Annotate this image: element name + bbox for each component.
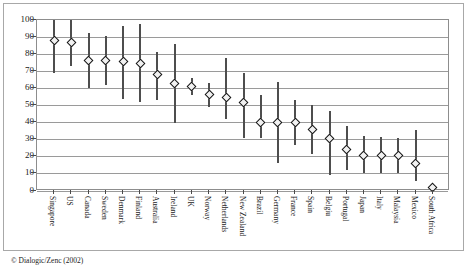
y-tick-mark [31,190,36,191]
y-tick-mark [31,138,36,139]
x-category-label: Spain [306,196,314,213]
y-tick-mark [31,19,36,20]
x-tick-mark [277,190,278,194]
data-point-marker [187,82,197,92]
x-category-label: Denmark [117,196,125,224]
gridline [37,139,448,140]
x-tick-mark [432,190,433,194]
data-point-marker [307,124,317,134]
x-tick-mark [363,190,364,194]
x-category-label: Mexico [410,196,418,219]
x-tick-mark [208,190,209,194]
y-tick-mark [31,121,36,122]
x-tick-mark [294,190,295,194]
x-category-label: South Africa [427,196,435,234]
data-point-marker [84,55,94,65]
data-point-marker [376,150,386,160]
x-tick-mark [380,190,381,194]
data-point-marker [342,144,352,154]
chart-figure: 0102030405060708090100 SingaporeUSCanada… [0,0,468,273]
y-tick-mark [31,53,36,54]
data-point-marker [101,55,111,65]
credit-box: © Dialogic/Zenc (2002) [3,250,464,270]
data-point-marker [290,118,300,128]
y-tick-mark [31,172,36,173]
x-category-label: Portugal [341,196,349,221]
x-tick-mark [53,190,54,194]
x-tick-mark [346,190,347,194]
x-tick-mark [139,190,140,194]
x-category-label: US [65,196,73,206]
x-tick-mark [122,190,123,194]
x-tick-mark [329,190,330,194]
x-tick-mark [88,190,89,194]
y-tick-mark [31,155,36,156]
x-category-label: France [289,196,297,216]
data-point-marker [221,93,231,103]
data-point-marker [135,59,145,69]
y-axis-tick-labels: 0102030405060708090100 [4,19,34,190]
data-point-marker [118,57,128,67]
gridline [37,71,448,72]
data-point-marker [256,118,266,128]
plot-area [36,19,449,190]
x-category-label: UK [186,196,194,207]
error-bar [225,58,227,119]
x-category-label: Australia [151,196,159,224]
x-category-label: Canada [83,196,91,219]
x-category-label: Belgiu [324,196,332,216]
data-point-marker [66,37,76,47]
x-category-label: Malaysia [392,196,400,224]
gridline [37,156,448,157]
x-category-label: Norway [203,196,211,220]
x-category-label: New Zealand [238,196,246,236]
data-point-marker [411,159,421,169]
x-tick-mark [415,190,416,194]
x-tick-mark [191,190,192,194]
x-category-label: Italy [375,196,383,210]
x-tick-mark [397,190,398,194]
y-tick-mark [31,104,36,105]
x-category-label: Finland [134,196,142,219]
x-category-label: Ireland [169,196,177,217]
y-tick-mark [31,36,36,37]
error-bar [415,130,417,180]
gridline [37,37,448,38]
gridline [37,173,448,174]
gridline [37,54,448,55]
data-point-marker [170,78,180,88]
x-tick-mark [70,190,71,194]
x-tick-mark [156,190,157,194]
data-point-marker [325,134,335,144]
x-category-label: Japan [358,196,366,213]
x-tick-mark [225,190,226,194]
data-point-marker [359,150,369,160]
y-tick-mark [31,87,36,88]
x-tick-mark [243,190,244,194]
error-bar [53,20,55,73]
x-category-label: Brazil [255,196,263,214]
x-category-label: Sweden [100,196,108,220]
x-tick-mark [105,190,106,194]
x-category-label: Germany [272,196,280,224]
x-category-label: Singapore [48,196,56,226]
x-tick-mark [311,190,312,194]
data-point-marker [273,118,283,128]
x-tick-mark [174,190,175,194]
data-point-marker [393,151,403,161]
x-category-label: Netherlands [220,196,228,232]
data-point-marker [204,89,214,99]
credit-text: © Dialogic/Zenc (2002) [11,256,83,265]
x-tick-mark [260,190,261,194]
y-tick-mark [31,70,36,71]
